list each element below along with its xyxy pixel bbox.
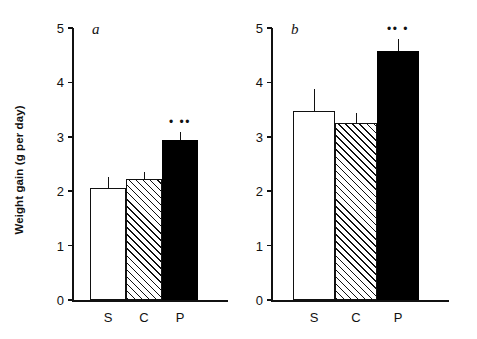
y-axis-tick <box>68 82 73 84</box>
error-bar-p <box>398 39 399 51</box>
error-bar-p <box>180 132 181 140</box>
x-axis-category-label: S <box>310 310 319 325</box>
y-axis-tick <box>267 82 272 84</box>
bar-c <box>126 179 162 300</box>
chart-panel-a: 012345aSC• ••P <box>34 0 239 339</box>
y-axis-tick <box>267 190 272 192</box>
y-axis-tick-label: 5 <box>245 21 263 36</box>
y-axis-tick-label: 2 <box>245 184 263 199</box>
error-bar-s <box>108 177 109 189</box>
y-axis-tick-label: 3 <box>46 129 64 144</box>
y-axis-tick-label: 4 <box>46 75 64 90</box>
y-axis-tick-label: 4 <box>245 75 263 90</box>
y-axis-tick <box>68 299 73 301</box>
x-axis-category-label: P <box>394 310 403 325</box>
significance-marker-p: •• • <box>387 23 409 35</box>
y-axis-tick <box>68 136 73 138</box>
y-axis-label-text: Weight gain (g per day) <box>13 105 25 234</box>
significance-marker-p: • •• <box>169 116 191 128</box>
y-axis-tick-label: 0 <box>245 293 263 308</box>
y-axis-label: Weight gain (g per day) <box>6 0 32 339</box>
y-axis-line <box>271 28 273 300</box>
y-axis-line <box>72 28 74 300</box>
x-axis-line <box>271 300 449 302</box>
x-axis-category-label: C <box>351 310 360 325</box>
y-axis-tick <box>267 299 272 301</box>
y-axis-tick-label: 3 <box>245 129 263 144</box>
x-axis-category-label: S <box>104 310 113 325</box>
plot-area-b: 012345bSC•• •P <box>245 0 477 339</box>
bar-s <box>293 111 335 300</box>
x-axis-line <box>72 300 228 302</box>
chart-panel-b: 012345bSC•• •P <box>245 0 477 339</box>
bar-c <box>335 123 377 300</box>
plot-area-a: 012345aSC• ••P <box>34 0 239 339</box>
x-axis-category-label: C <box>139 310 148 325</box>
panel-letter: a <box>92 21 100 38</box>
bar-s <box>90 188 126 300</box>
y-axis-tick <box>68 245 73 247</box>
figure-container: Weight gain (g per day) 012345aSC• ••P 0… <box>0 0 477 339</box>
panel-letter: b <box>291 21 299 38</box>
y-axis-tick <box>267 245 272 247</box>
error-bar-s <box>314 89 315 111</box>
x-axis-category-label: P <box>176 310 185 325</box>
error-bar-c <box>144 172 145 180</box>
bar-p <box>377 51 419 300</box>
y-axis-tick <box>68 27 73 29</box>
bar-p <box>162 140 198 300</box>
y-axis-tick-label: 2 <box>46 184 64 199</box>
y-axis-tick-label: 0 <box>46 293 64 308</box>
y-axis-tick-label: 1 <box>46 238 64 253</box>
error-bar-c <box>356 113 357 123</box>
y-axis-tick <box>267 136 272 138</box>
y-axis-tick <box>267 27 272 29</box>
y-axis-tick <box>68 190 73 192</box>
y-axis-tick-label: 5 <box>46 21 64 36</box>
y-axis-tick-label: 1 <box>245 238 263 253</box>
